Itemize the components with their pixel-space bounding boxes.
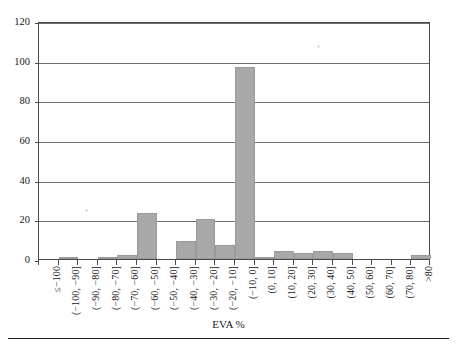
x-axis-title: EVA % (0, 318, 457, 330)
y-axis-tick-mark (35, 102, 39, 103)
bar-slot (313, 21, 333, 259)
x-axis-tick-label: (−60, −50] (150, 266, 160, 310)
x-axis-tick-label: (60, 70] (385, 266, 395, 298)
y-axis-tick-label: 0 (25, 255, 30, 266)
bar-slot (137, 21, 157, 259)
x-axis-tick-mark (156, 260, 157, 265)
x-axis-tick-label: (20, 30] (307, 266, 317, 298)
bar-slot (117, 21, 137, 259)
x-axis-tick-label: >80 (424, 266, 434, 282)
figure-container: 020406080100120 ≤−100(−100, −90](−90, −8… (0, 0, 457, 345)
x-axis-tick-mark (254, 260, 255, 265)
x-axis-tick-mark (371, 260, 372, 265)
bar-slot (98, 21, 118, 259)
bar-slot (274, 21, 294, 259)
x-axis-tick-mark (429, 260, 430, 265)
bar[interactable] (137, 213, 157, 259)
bar-slot (39, 21, 59, 259)
footer-rule (8, 338, 449, 339)
x-axis-tick-label: (−20, −10] (228, 266, 238, 310)
bar-slot (411, 21, 431, 259)
x-axis-tick-mark (195, 260, 196, 265)
bar[interactable] (59, 257, 79, 259)
y-axis-tick-label: 60 (20, 136, 31, 147)
bar[interactable] (196, 219, 216, 259)
y-axis-tick-mark (35, 23, 39, 24)
bar-slot (176, 21, 196, 259)
bar-slot (255, 21, 275, 259)
y-axis-tick-mark (35, 221, 39, 222)
x-axis-tick-mark (391, 260, 392, 265)
bar[interactable] (176, 241, 196, 259)
x-axis-tick-mark (97, 260, 98, 265)
y-axis-tick-label: 120 (14, 17, 30, 28)
y-axis-tick-mark (35, 182, 39, 183)
x-axis-tick-mark (352, 260, 353, 265)
x-axis-tick-label: (−100, −90] (71, 266, 81, 315)
y-axis-tick-labels: 020406080100120 (0, 22, 34, 260)
scan-speck (317, 45, 320, 48)
bar[interactable] (411, 255, 431, 259)
bar-slot (78, 21, 98, 259)
bar-slot (215, 21, 235, 259)
x-axis-tick-mark (77, 260, 78, 265)
x-axis-tick-mark (58, 260, 59, 265)
bar[interactable] (255, 257, 275, 259)
bar-slot (235, 21, 255, 259)
x-axis-tick-label: (40, 50] (346, 266, 356, 298)
x-axis-tick-label: (70, 80] (405, 266, 415, 298)
x-axis-tick-mark (116, 260, 117, 265)
y-axis-tick-mark (35, 63, 39, 64)
x-axis-title-text: EVA % (212, 318, 245, 330)
y-axis-tick-label: 80 (20, 96, 31, 107)
x-axis-tick-label: (10, 20] (287, 266, 297, 298)
bar-slot (353, 21, 373, 259)
x-axis-tick-mark (214, 260, 215, 265)
x-axis-tick-label: ≤−100 (52, 266, 62, 293)
bar[interactable] (235, 67, 255, 259)
bar-slot (333, 21, 353, 259)
x-axis-tick-label: (−70, −60] (130, 266, 140, 310)
bar-series (39, 23, 429, 259)
bar[interactable] (313, 251, 333, 259)
x-axis-tick-mark (332, 260, 333, 265)
x-axis-tick-label: (−90, −80] (91, 266, 101, 310)
x-axis-tick-mark (312, 260, 313, 265)
bar-slot (392, 21, 412, 259)
y-axis-tick-label: 100 (14, 56, 30, 67)
x-axis-tick-mark (234, 260, 235, 265)
bar[interactable] (274, 251, 294, 259)
scan-speck (85, 209, 88, 212)
x-axis-tick-mark (175, 260, 176, 265)
bar[interactable] (117, 255, 137, 259)
bar[interactable] (294, 253, 314, 259)
bar-slot (157, 21, 177, 259)
y-axis-tick-label: 20 (20, 215, 31, 226)
bar-slot (59, 21, 79, 259)
x-axis-tick-mark (410, 260, 411, 265)
x-axis-tick-label: (30, 40] (326, 266, 336, 298)
x-axis-tick-label: (−50, −40] (169, 266, 179, 310)
x-axis-tick-label: (0, 10] (267, 266, 277, 293)
x-axis-tick-label: (−40, −30] (189, 266, 199, 310)
plot-area (38, 22, 430, 260)
bar-slot (294, 21, 314, 259)
x-axis-tick-label: (−10, 0] (248, 266, 258, 299)
x-axis-tick-label: (50, 60] (365, 266, 375, 298)
x-axis-tick-mark (38, 260, 39, 265)
x-axis-tick-mark (273, 260, 274, 265)
x-axis-tick-labels: ≤−100(−100, −90](−90, −80](−80, −70](−70… (38, 266, 430, 326)
bar-slot (372, 21, 392, 259)
bar[interactable] (215, 245, 235, 259)
bar[interactable] (333, 253, 353, 259)
x-axis-tick-label: (−30, −20] (209, 266, 219, 310)
y-axis-tick-mark (35, 142, 39, 143)
x-axis-tick-mark (136, 260, 137, 265)
y-axis-tick-label: 40 (20, 175, 31, 186)
bar[interactable] (98, 257, 118, 259)
x-axis-tick-mark (293, 260, 294, 265)
x-axis-tick-label: (−80, −70] (111, 266, 121, 310)
bar-slot (196, 21, 216, 259)
